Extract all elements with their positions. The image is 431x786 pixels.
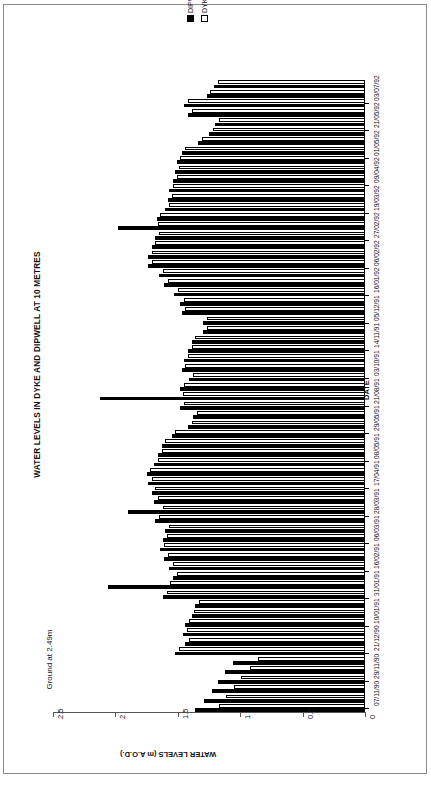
bar-dipwell [152,245,365,249]
category-tick-label: 06/03/91 [373,515,380,541]
bar-dyke [184,383,365,387]
bar-dipwell [225,670,365,674]
bar-dyke [192,345,365,349]
bar-dyke [159,515,365,519]
bar-dyke [185,364,365,368]
bar-dyke [179,647,365,651]
bar-dipwell [185,642,365,646]
bar-dyke [219,704,365,708]
bar-dipwell [163,538,365,542]
bar-dipwell [128,510,365,514]
bar-dyke [195,336,365,340]
bar-dipwell [164,283,365,287]
bar-dipwell [203,321,365,325]
category-tick-label: 06/02/92 [373,240,380,266]
bar-dipwell [108,585,365,589]
bar-dipwell [158,453,365,457]
bar-dyke [218,80,365,84]
category-tick [364,130,369,131]
category-tick [364,378,369,379]
bar-dipwell [188,349,365,353]
bar-dipwell [182,311,365,315]
bar-dipwell [204,699,365,703]
bar-dyke [167,534,365,538]
bar-dyke [192,421,365,425]
bar-dyke [226,695,365,699]
legend-swatch-dyke [201,15,208,22]
bar-dipwell [180,406,365,410]
bar-dyke [160,213,365,217]
bar-dipwell [163,595,365,599]
category-tick-label: 21/08/91 [373,378,380,404]
category-tick-label: 07/11/90 [373,681,380,706]
bar-dyke [193,373,365,377]
value-tick [178,712,179,717]
bar-dyke [234,685,365,689]
bar-dyke [207,317,365,321]
value-tick-label: 1.5 [181,709,190,719]
bar-dipwell [165,529,365,533]
bar-dipwell [189,378,365,382]
bar-dyke [210,90,365,94]
bar-dipwell [148,482,365,486]
bar-dipwell [154,500,365,504]
bar-dipwell [169,189,365,193]
category-tick [364,268,369,269]
bar-dyke [173,184,365,188]
value-tick-label: 2 [118,715,127,719]
category-tick-label: 27/02/92 [373,213,380,239]
category-tick [364,295,369,296]
bar-dyke [258,657,365,661]
bar-dipwell [159,274,365,278]
bar-dyke [213,128,365,132]
value-tick [53,712,54,717]
category-tick [364,516,369,517]
bar-dyke [169,525,365,529]
bar-dyke [202,137,365,141]
bar-dyke [173,562,365,566]
legend-label-dyke: DYKE [201,0,208,13]
bar-dipwell [192,340,365,344]
category-tick [364,240,369,241]
bar-dipwell [100,397,365,401]
bar-dyke [152,260,365,264]
bar-dyke [177,175,365,179]
bar-dipwell [195,604,365,608]
category-tick-label: 10/01/91 [373,598,380,624]
bar-dyke [163,269,365,273]
bar-dyke [185,147,365,151]
bar-dipwell [233,661,365,665]
category-tick-label: 17/04/91 [373,460,380,486]
bar-dipwell [182,368,365,372]
bar-dyke [188,99,365,103]
legend-label-dipwell: DIPWELL [187,0,194,13]
category-tick [364,213,369,214]
bar-dipwell [148,264,365,268]
bar-dipwell [175,652,365,656]
bar-dipwell [218,680,365,684]
category-tick-label: 31/01/91 [373,571,380,597]
bar-dyke [167,591,365,595]
category-axis-label: DATE [362,380,371,400]
value-tick-label: 0 [368,715,377,719]
category-tick-label: 16/01/92 [373,268,380,294]
category-tick-label: 05/12/91 [373,295,380,321]
category-tick [364,571,369,572]
value-tick-label: 0.5 [306,709,315,719]
bar-dyke [168,553,365,557]
bar-dipwell [182,151,365,155]
category-tick [364,598,369,599]
bar-dipwell [188,425,365,429]
bar-dyke [172,194,365,198]
bar-dipwell [180,387,365,391]
bar-dyke [184,298,365,302]
bar-dyke [180,156,365,160]
category-tick [364,323,369,324]
bar-dyke [170,581,365,585]
bar-dyke [155,241,365,245]
page-title: WATER LEVELS IN DYKE AND DIPWELL AT 10 M… [33,240,42,490]
bar-dipwell [215,123,365,127]
bar-dyke [164,543,365,547]
bar-dipwell [184,359,365,363]
bar-dyke [152,477,365,481]
